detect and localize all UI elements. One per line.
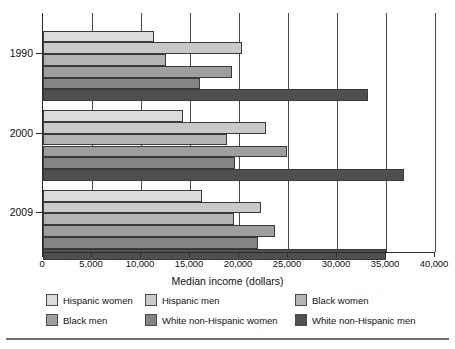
bar xyxy=(43,66,232,78)
gridline xyxy=(435,13,436,252)
plot-wrapper: 05,00010,00015,00020,00025,00030,00035,0… xyxy=(0,0,455,262)
legend-label: Hispanic men xyxy=(162,295,220,306)
legend-swatch-icon xyxy=(145,294,157,306)
x-tick xyxy=(91,252,92,257)
legend-label: White non-Hispanic men xyxy=(312,315,416,326)
y-tick-label-1990: 1990 xyxy=(0,47,33,59)
x-tick-label: 10,000 xyxy=(126,258,154,269)
legend-swatch-icon xyxy=(46,314,58,326)
bar xyxy=(43,225,275,237)
bar xyxy=(43,122,266,134)
y-tick xyxy=(36,212,42,213)
x-tick xyxy=(140,252,141,257)
y-tick xyxy=(36,133,42,134)
legend-swatch-icon xyxy=(46,294,58,306)
x-tick-label: 15,000 xyxy=(175,258,203,269)
footer-rule xyxy=(6,338,449,340)
bar xyxy=(43,110,183,122)
x-tick-label: 30,000 xyxy=(322,258,350,269)
bar xyxy=(43,213,234,225)
x-tick xyxy=(287,252,288,257)
y-tick-label-2000: 2000 xyxy=(0,127,33,139)
legend-item[interactable]: Hispanic men xyxy=(145,294,220,306)
legend-label: White non-Hispanic women xyxy=(162,315,278,326)
legend-item[interactable]: White non-Hispanic men xyxy=(295,314,416,326)
bar xyxy=(43,42,242,54)
legend-label: Black men xyxy=(63,315,107,326)
legend-item[interactable]: White non-Hispanic women xyxy=(145,314,278,326)
legend-label: Hispanic women xyxy=(63,295,133,306)
x-tick xyxy=(434,252,435,257)
x-tick-label: 5,000 xyxy=(79,258,102,269)
x-tick-label: 20,000 xyxy=(224,258,252,269)
x-tick xyxy=(385,252,386,257)
x-tick-label: 40,000 xyxy=(420,258,448,269)
x-tick-label: 25,000 xyxy=(273,258,301,269)
gridline xyxy=(386,13,387,252)
legend-label: Black women xyxy=(312,295,369,306)
bar xyxy=(43,157,235,169)
bar xyxy=(43,31,154,43)
bar xyxy=(43,89,368,101)
x-tick-label: 0 xyxy=(39,258,44,269)
legend-swatch-icon xyxy=(295,314,307,326)
bar xyxy=(43,134,227,146)
x-tick xyxy=(238,252,239,257)
legend-swatch-icon xyxy=(145,314,157,326)
bar xyxy=(43,146,287,158)
legend-item[interactable]: Hispanic women xyxy=(46,294,133,306)
gridline xyxy=(288,13,289,252)
chart-legend: Hispanic womenHispanic menBlack womenBla… xyxy=(0,292,455,334)
chart-figure: 05,00010,00015,00020,00025,00030,00035,0… xyxy=(0,0,455,349)
x-tick-label: 35,000 xyxy=(371,258,399,269)
bar xyxy=(43,169,404,181)
plot-area xyxy=(42,13,434,252)
x-tick xyxy=(42,252,43,257)
bar xyxy=(43,237,258,249)
bar xyxy=(43,190,202,202)
bar xyxy=(43,54,166,66)
legend-item[interactable]: Black women xyxy=(295,294,369,306)
x-tick xyxy=(189,252,190,257)
gridline xyxy=(337,13,338,252)
y-tick xyxy=(36,53,42,54)
bar xyxy=(43,78,200,90)
legend-item[interactable]: Black men xyxy=(46,314,107,326)
x-tick xyxy=(336,252,337,257)
y-tick-label-2009: 2009 xyxy=(0,206,33,218)
bar xyxy=(43,202,261,214)
legend-swatch-icon xyxy=(295,294,307,306)
x-axis-title: Median income (dollars) xyxy=(0,275,455,287)
